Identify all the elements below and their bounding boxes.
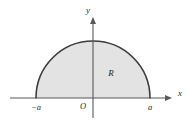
x-axis-arrowhead-icon: [165, 95, 172, 101]
tick-label-a: a: [148, 102, 152, 112]
y-axis-label: y: [85, 5, 90, 15]
y-axis-arrowhead-icon: [90, 17, 96, 24]
region-label-R: R: [107, 68, 114, 78]
half-disk-diagram: x y O −a a R: [0, 0, 189, 121]
x-axis-label: x: [177, 88, 182, 98]
tick-label-minus-a: −a: [31, 102, 41, 112]
figure-container: x y O −a a R: [0, 0, 189, 121]
origin-label: O: [80, 101, 86, 111]
